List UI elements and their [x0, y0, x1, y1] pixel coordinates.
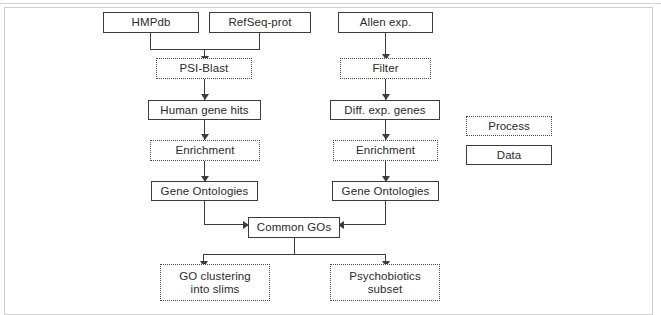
connector-go-right-down — [385, 201, 386, 225]
connector-go-left-to-common — [204, 224, 246, 225]
connector-go-right-to-common — [344, 224, 386, 225]
node-go-clustering-line1: GO clustering — [179, 270, 251, 283]
connector-hmpdb-down — [150, 33, 151, 50]
node-hmpdb-label: HMPdb — [104, 16, 198, 29]
node-human-gene-hits[interactable]: Human gene hits — [148, 100, 261, 120]
connector-common-split — [203, 254, 386, 255]
node-go-clustering-into-slims[interactable]: GO clustering into slims — [160, 264, 270, 301]
connector-common-down — [294, 238, 295, 255]
node-allen-exp-label: Allen exp. — [339, 16, 432, 29]
node-go-clustering-line2: into slims — [191, 283, 240, 296]
legend-data-swatch: Data — [466, 145, 552, 165]
legend-process-label: Process — [488, 120, 530, 132]
node-psi-blast-label: PSI-Blast — [157, 62, 251, 75]
node-gene-ontologies-left[interactable]: Gene Ontologies — [151, 181, 258, 201]
node-diff-exp-genes[interactable]: Diff. exp. genes — [330, 100, 440, 120]
node-gene-ontologies-right-label: Gene Ontologies — [333, 185, 438, 198]
node-common-gos-label: Common GOs — [249, 221, 339, 234]
connector-refseq-down — [259, 33, 260, 50]
connector-top-left-elbow — [150, 49, 205, 50]
node-gene-ontologies-left-label: Gene Ontologies — [152, 185, 257, 198]
node-human-gene-hits-label: Human gene hits — [149, 104, 260, 117]
node-psychobiotics-line2: subset — [368, 283, 402, 296]
connector-top-right-elbow — [204, 49, 260, 50]
connector-go-left-down — [204, 201, 205, 225]
node-filter-label: Filter — [341, 62, 430, 75]
node-hmpdb[interactable]: HMPdb — [103, 12, 199, 33]
node-diff-exp-genes-label: Diff. exp. genes — [331, 104, 439, 117]
node-enrichment-right-label: Enrichment — [334, 144, 437, 157]
node-enrichment-left-label: Enrichment — [151, 144, 259, 157]
node-filter[interactable]: Filter — [340, 58, 431, 79]
node-enrichment-right[interactable]: Enrichment — [333, 140, 438, 161]
legend-data-label: Data — [497, 149, 521, 161]
node-allen-exp[interactable]: Allen exp. — [338, 12, 433, 33]
node-gene-ontologies-right[interactable]: Gene Ontologies — [332, 181, 439, 201]
legend-process-swatch: Process — [466, 116, 552, 136]
node-psychobiotics-subset[interactable]: Psychobiotics subset — [330, 264, 440, 301]
node-refseq-prot[interactable]: RefSeq-prot — [209, 12, 311, 33]
node-psi-blast[interactable]: PSI-Blast — [156, 58, 252, 79]
top-rule — [0, 3, 661, 4]
node-refseq-prot-label: RefSeq-prot — [210, 16, 310, 29]
node-psychobiotics-line1: Psychobiotics — [349, 270, 421, 283]
node-common-gos[interactable]: Common GOs — [248, 217, 340, 238]
node-enrichment-left[interactable]: Enrichment — [150, 140, 260, 161]
figure-frame — [4, 7, 653, 315]
